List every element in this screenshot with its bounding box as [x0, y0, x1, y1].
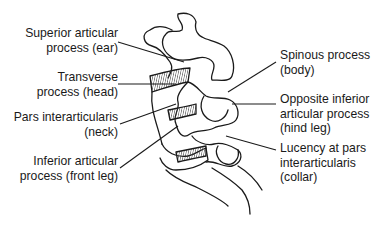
label-line: interarticularis: [280, 156, 366, 171]
label-line: (hind leg): [280, 121, 369, 136]
upper-endplate-hatch: [150, 68, 190, 92]
lower-endplate-hatch: [176, 146, 206, 162]
label-superior-articular-process: Superior articular process (ear): [25, 26, 118, 55]
leader-spinous: [228, 62, 276, 92]
label-line: Spinous process: [280, 48, 370, 63]
upper-vertebral-body: [144, 27, 172, 78]
label-line: Superior articular: [25, 26, 118, 41]
label-line: Opposite inferior: [280, 92, 369, 107]
leader-pars: [120, 104, 176, 124]
label-line: (body): [280, 63, 370, 78]
sacrum-lines: [166, 166, 262, 214]
label-spinous-process: Spinous process (body): [280, 48, 370, 77]
label-line: Lucency at pars: [280, 141, 366, 156]
label-opposite-inferior-articular-process: Opposite inferior articular process (hin…: [280, 92, 369, 136]
label-line: process (head): [37, 85, 118, 100]
label-line: Transverse: [37, 70, 118, 85]
leader-superior-articular: [118, 42, 184, 62]
label-line: Inferior articular: [20, 154, 118, 169]
label-line: (neck): [14, 125, 118, 140]
label-inferior-articular-process: Inferior articular process (front leg): [20, 154, 118, 183]
label-line: articular process: [280, 107, 369, 122]
label-lucency-pars: Lucency at pars interarticularis (collar…: [280, 141, 366, 185]
leader-inferior-articular: [120, 126, 178, 168]
label-transverse-process: Transverse process (head): [37, 70, 118, 99]
label-line: (collar): [280, 170, 366, 185]
label-line: Pars interarticularis: [14, 110, 118, 125]
label-line: process (ear): [25, 41, 118, 56]
label-line: process (front leg): [20, 169, 118, 184]
middle-endplate-hatch: [168, 104, 196, 120]
label-pars-interarticularis: Pars interarticularis (neck): [14, 110, 118, 139]
